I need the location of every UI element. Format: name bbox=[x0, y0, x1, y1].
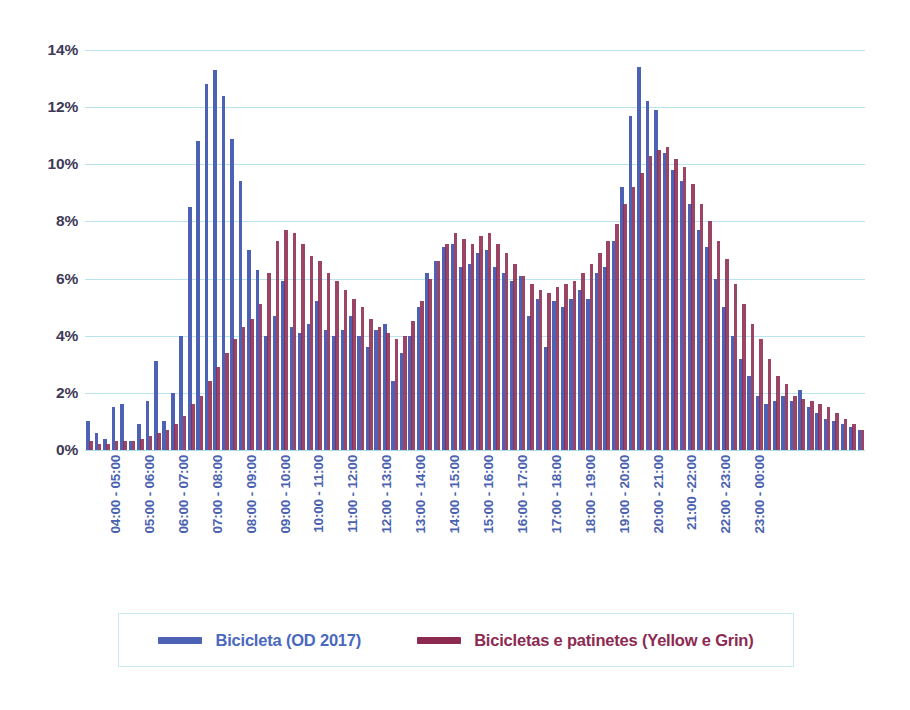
legend-swatch-icon bbox=[158, 637, 202, 644]
bar-bicicletas-patinetes bbox=[539, 290, 543, 450]
bar-bicicletas-patinetes bbox=[166, 430, 170, 450]
bar-bicicletas-patinetes bbox=[395, 339, 399, 450]
bar-group bbox=[611, 50, 619, 450]
bar-bicicletas-patinetes bbox=[564, 284, 568, 450]
legend-label: Bicicleta (OD 2017) bbox=[215, 631, 361, 650]
bar-bicicletas-patinetes bbox=[284, 230, 288, 450]
bar-group bbox=[483, 50, 491, 450]
bar-group bbox=[806, 50, 814, 450]
bar-group bbox=[433, 50, 441, 450]
bar-bicicletas-patinetes bbox=[708, 221, 712, 450]
bar-group bbox=[653, 50, 661, 450]
bar-bicicletas-patinetes bbox=[700, 204, 704, 450]
bar-bicicletas-patinetes bbox=[827, 407, 831, 450]
bar-bicicletas-patinetes bbox=[598, 253, 602, 450]
bar-group bbox=[195, 50, 203, 450]
bar-bicicletas-patinetes bbox=[734, 284, 738, 450]
legend-item[interactable]: Bicicletas e patinetes (Yellow e Grin) bbox=[417, 631, 753, 650]
bar-group bbox=[509, 50, 517, 450]
legend-item[interactable]: Bicicleta (OD 2017) bbox=[158, 631, 361, 650]
bar-group bbox=[212, 50, 220, 450]
bar-bicicletas-patinetes bbox=[378, 327, 382, 450]
bar-bicicletas-patinetes bbox=[674, 159, 678, 450]
bar-group bbox=[221, 50, 229, 450]
bar-group bbox=[814, 50, 822, 450]
bar-bicicletas-patinetes bbox=[132, 441, 136, 450]
bar-bicicletas-patinetes bbox=[479, 236, 483, 450]
bar-bicicletas-patinetes bbox=[835, 413, 839, 450]
bar-group bbox=[763, 50, 771, 450]
bar-bicicletas-patinetes bbox=[89, 441, 93, 450]
bar-bicicletas-patinetes bbox=[793, 396, 797, 450]
bar-group bbox=[93, 50, 101, 450]
bar-group bbox=[255, 50, 263, 450]
bar-bicicletas-patinetes bbox=[318, 261, 322, 450]
x-axis-tick-label: 07:00 - 08:00 bbox=[210, 455, 228, 585]
bar-group bbox=[339, 50, 347, 450]
bar-bicicletas-patinetes bbox=[717, 241, 721, 450]
bar-bicicletas-patinetes bbox=[174, 424, 178, 450]
y-axis-tick-label: 10% bbox=[16, 155, 78, 173]
bar-group bbox=[831, 50, 839, 450]
bar-bicicletas-patinetes bbox=[445, 244, 449, 450]
bar-group bbox=[712, 50, 720, 450]
bar-bicicletas-patinetes bbox=[420, 301, 424, 450]
bar-group bbox=[348, 50, 356, 450]
bar-group bbox=[577, 50, 585, 450]
bar-group bbox=[229, 50, 237, 450]
bar-bicicletas-patinetes bbox=[454, 233, 458, 450]
x-axis-tick-label: 14:00 - 15:00 bbox=[447, 455, 465, 585]
y-axis-tick-label: 4% bbox=[16, 327, 78, 345]
x-axis-tick-label: 11:00 - 12:00 bbox=[345, 455, 363, 585]
bar-bicicletas-patinetes bbox=[810, 401, 814, 450]
bar-group bbox=[568, 50, 576, 450]
bar-bicicletas-patinetes bbox=[751, 324, 755, 450]
bar-bicicletas-patinetes bbox=[276, 241, 280, 450]
bar-bicicletas-patinetes bbox=[191, 404, 195, 450]
bar-bicicletas-patinetes bbox=[844, 419, 848, 450]
bar-group bbox=[797, 50, 805, 450]
bar-group bbox=[636, 50, 644, 450]
x-axis-tick-label: 15:00 - 16:00 bbox=[481, 455, 499, 585]
x-axis-tick-label: 10:00 - 11:00 bbox=[311, 455, 329, 585]
y-axis-tick-label: 6% bbox=[16, 270, 78, 288]
bar-group bbox=[424, 50, 432, 450]
bar-group bbox=[467, 50, 475, 450]
bar-bicicletas-patinetes bbox=[861, 430, 865, 450]
x-axis-tick-label: 05:00 - 06:00 bbox=[142, 455, 160, 585]
bar-bicicletas-patinetes bbox=[369, 319, 373, 450]
bar-bicicletas-patinetes bbox=[250, 319, 254, 450]
bar-group bbox=[399, 50, 407, 450]
bar-group bbox=[848, 50, 856, 450]
bar-group bbox=[102, 50, 110, 450]
bar-group bbox=[645, 50, 653, 450]
y-axis-tick-label: 14% bbox=[16, 41, 78, 59]
bar-group bbox=[288, 50, 296, 450]
bar-bicicletas-patinetes bbox=[581, 273, 585, 450]
bar-bicicletas-patinetes bbox=[683, 167, 687, 450]
bar-bicicletas-patinetes bbox=[852, 424, 856, 450]
x-axis-tick-label: 04:00 - 05:00 bbox=[108, 455, 126, 585]
bar-bicicletas-patinetes bbox=[488, 233, 492, 450]
bar-bicicletas-patinetes bbox=[801, 399, 805, 450]
bar-bicicletas-patinetes bbox=[649, 156, 653, 450]
bar-group bbox=[390, 50, 398, 450]
bar-bicicletas-patinetes bbox=[725, 259, 729, 450]
bar-group bbox=[560, 50, 568, 450]
bar-group bbox=[365, 50, 373, 450]
bar-bicicletas-patinetes bbox=[818, 404, 822, 450]
bar-group bbox=[263, 50, 271, 450]
x-axis-tick-label: 19:00 - 20:00 bbox=[617, 455, 635, 585]
bar-group bbox=[619, 50, 627, 450]
x-axis-tick-label: 13:00 - 14:00 bbox=[413, 455, 431, 585]
bar-group bbox=[450, 50, 458, 450]
bar-group bbox=[297, 50, 305, 450]
y-axis: 0%2%4%6%8%10%12%14% bbox=[0, 50, 78, 450]
bar-group bbox=[407, 50, 415, 450]
plot-area bbox=[85, 50, 865, 450]
bar-bicicletas-patinetes bbox=[547, 293, 551, 450]
bar-group bbox=[161, 50, 169, 450]
legend-label: Bicicletas e patinetes (Yellow e Grin) bbox=[474, 631, 753, 650]
bar-group bbox=[840, 50, 848, 450]
bar-group bbox=[628, 50, 636, 450]
